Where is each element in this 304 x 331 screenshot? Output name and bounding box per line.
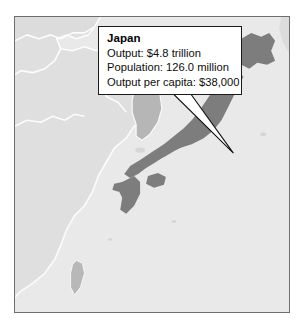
island-jeju [135,148,145,153]
callout-output-per-capita: Output per capita: $38,000 [107,75,234,90]
callout-box[interactable]: Japan Output: $4.8 trillion Population: … [98,26,242,95]
callout-population: Population: 126.0 million [107,60,234,75]
map-panel[interactable]: Japan Output: $4.8 trillion Population: … [14,16,290,313]
callout-title: Japan [107,31,234,46]
map-figure: Japan Output: $4.8 trillion Population: … [0,0,304,331]
callout-output: Output: $4.8 trillion [107,46,234,61]
